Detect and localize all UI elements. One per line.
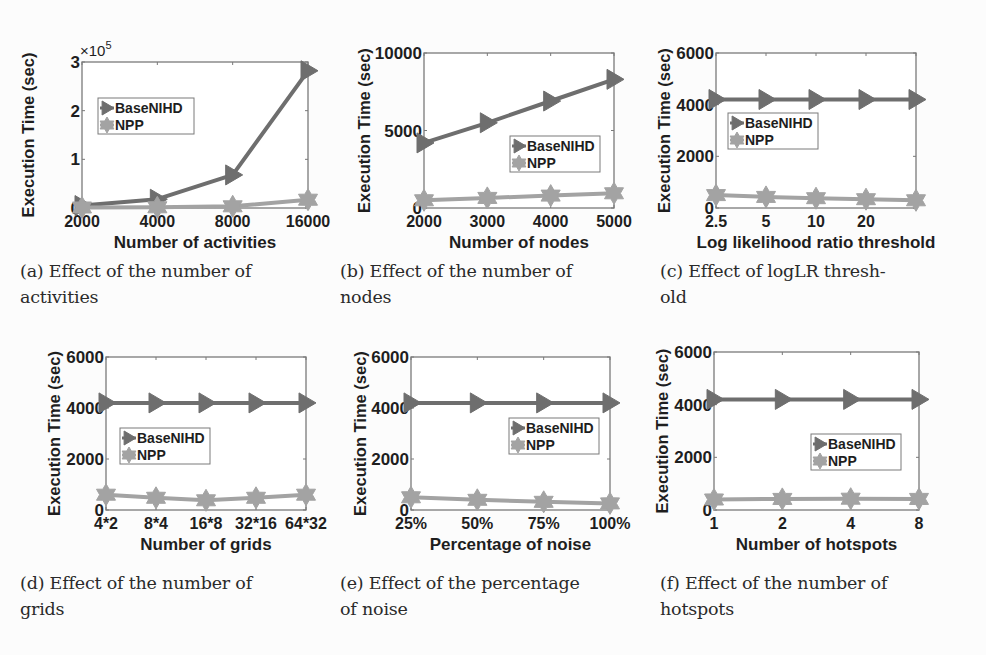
x-tick-label: 10 [807, 213, 825, 230]
caption-c-line1: (c) Effect of logLR thresh- [660, 258, 886, 284]
y-tick-label: 3 [71, 53, 80, 72]
y-axis-label: Execution Time (sec) [355, 48, 373, 213]
x-axis-label: Number of nodes [449, 233, 589, 252]
y-tick-label: 2000 [66, 450, 104, 469]
caption-d-line2: grids [20, 596, 252, 622]
y-tick-label: 6000 [674, 343, 712, 362]
chart-panel-d: 02000400060004*28*416*832*1664*32Number … [45, 348, 327, 554]
legend-label-basenihd: BaseNIHD [828, 436, 896, 452]
legend: BaseNIHDNPP [120, 428, 210, 464]
triangle-right-marker-icon [301, 61, 318, 81]
legend: BaseNIHDNPP [510, 136, 600, 172]
x-tick-label: 1 [710, 515, 719, 532]
x-tick-label: 5000 [596, 213, 632, 230]
y-tick-label: 4000 [676, 96, 714, 115]
y-tick-label: 6000 [371, 348, 409, 367]
x-tick-label: 8 [915, 515, 924, 532]
caption-c-line2: old [660, 284, 886, 310]
x-tick-label: 2 [778, 515, 787, 532]
x-tick-label: 4*2 [94, 515, 118, 532]
x-tick-label: 8*4 [144, 515, 168, 532]
figure-grid: 012320004000800016000×105Number of activ… [0, 0, 986, 655]
triangle-right-marker-icon [299, 393, 316, 413]
caption-e: (e) Effect of the percentage of noise [340, 570, 580, 622]
legend-label-npp: NPP [745, 132, 774, 148]
caption-d: (d) Effect of the number of grids [20, 570, 252, 622]
y-tick-label: 2 [71, 102, 80, 121]
y-axis-label: Execution Time (sec) [653, 349, 671, 514]
y-tick-label: 2000 [676, 147, 714, 166]
caption-b-line1: (b) Effect of the number of [340, 258, 572, 284]
legend-label-basenihd: BaseNIHD [115, 100, 183, 116]
x-tick-label: 2000 [406, 213, 442, 230]
y-axis-label: Execution Time (sec) [351, 351, 369, 516]
legend-label-basenihd: BaseNIHD [526, 420, 594, 436]
x-axis-label: Log likelihood ratio threshold [697, 233, 936, 252]
x-tick-label: 5 [762, 213, 771, 230]
caption-d-line1: (d) Effect of the number of [20, 570, 252, 596]
y-tick-label: 4000 [674, 396, 712, 415]
x-axis-label: Percentage of noise [430, 535, 592, 554]
y-tick-label: 10000 [375, 44, 422, 63]
x-tick-label: 4000 [533, 213, 569, 230]
triangle-right-marker-icon [912, 389, 929, 409]
x-axis-label: Number of grids [140, 535, 271, 554]
x-tick-label: 16000 [286, 213, 331, 230]
y-tick-label: 6000 [676, 44, 714, 63]
chart-panel-a: 012320004000800016000×105Number of activ… [19, 39, 330, 252]
x-tick-label: 50% [461, 515, 493, 532]
legend-label-npp: NPP [527, 155, 556, 171]
caption-a: (a) Effect of the number of activities [20, 258, 251, 310]
x-tick-label: 64*32 [285, 515, 327, 532]
y-tick-label: 2000 [674, 448, 712, 467]
x-tick-label: 2.5 [705, 213, 727, 230]
x-tick-label: 25% [395, 515, 427, 532]
legend-label-basenihd: BaseNIHD [137, 430, 205, 446]
triangle-right-marker-icon [909, 90, 926, 110]
caption-b: (b) Effect of the number of nodes [340, 258, 572, 310]
caption-e-line1: (e) Effect of the percentage [340, 570, 580, 596]
legend-label-npp: NPP [137, 447, 166, 463]
chart-panel-f: 02000400060001248Number of hotspotsExecu… [653, 343, 929, 554]
caption-f: (f) Effect of the number of hotspots [660, 570, 887, 622]
x-tick-label: 4 [846, 515, 855, 532]
x-axis-label: Number of activities [114, 233, 277, 252]
y-tick-label: 4000 [371, 399, 409, 418]
legend-label-npp: NPP [526, 437, 555, 453]
legend: BaseNIHDNPP [811, 434, 901, 470]
caption-f-line2: hotspots [660, 596, 887, 622]
legend: BaseNIHDNPP [98, 98, 194, 134]
plot-area [424, 53, 614, 208]
caption-a-line1: (a) Effect of the number of [20, 258, 251, 284]
legend-label-basenihd: BaseNIHD [745, 115, 813, 131]
chart-panel-b: 05000100002000300040005000Number of node… [355, 44, 632, 252]
y-tick-label: 2000 [371, 450, 409, 469]
y-exponent-label: ×105 [80, 39, 112, 59]
y-tick-label: 5000 [384, 122, 422, 141]
y-tick-label: 4000 [66, 399, 104, 418]
x-tick-label: 16*8 [190, 515, 223, 532]
x-tick-label: 75% [528, 515, 560, 532]
x-tick-label: 32*16 [235, 515, 277, 532]
legend-label-basenihd: BaseNIHD [527, 138, 595, 154]
legend-label-npp: NPP [115, 117, 144, 133]
plot-area [714, 352, 919, 510]
legend: BaseNIHDNPP [728, 113, 818, 149]
y-axis-label: Execution Time (sec) [19, 53, 37, 218]
x-tick-label: 3000 [470, 213, 506, 230]
x-tick-label: 20 [857, 213, 875, 230]
chart-panel-e: 020004000600025%50%75%100%Percentage of … [351, 348, 630, 554]
legend-label-npp: NPP [828, 453, 857, 469]
caption-e-line2: of noise [340, 596, 580, 622]
legend: BaseNIHDNPP [509, 418, 599, 454]
series-line-npp [714, 499, 919, 500]
chart-panel-c: 02000400060002.551020Log likelihood rati… [655, 44, 935, 252]
x-axis-label: Number of hotspots [736, 535, 898, 554]
y-tick-label: 6000 [66, 348, 104, 367]
caption-a-line2: activities [20, 284, 251, 310]
y-tick-label: 1 [71, 150, 80, 169]
triangle-right-marker-icon [603, 393, 620, 413]
y-axis-label: Execution Time (sec) [45, 351, 63, 516]
y-axis-label: Execution Time (sec) [655, 48, 673, 213]
caption-f-line1: (f) Effect of the number of [660, 570, 887, 596]
